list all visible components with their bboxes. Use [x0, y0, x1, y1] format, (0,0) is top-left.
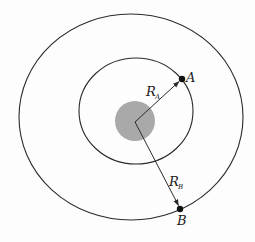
radius-a-label: R A — [145, 84, 160, 101]
point-a — [179, 76, 185, 82]
radius-b-label: R B — [168, 174, 183, 191]
central-body — [115, 101, 155, 141]
radius-a-label-sub: A — [154, 93, 160, 101]
radius-vector-a — [135, 82, 179, 123]
orbit-diagram: A B R A R B — [0, 0, 255, 242]
point-b-label: B — [176, 213, 187, 228]
point-a-label: A — [185, 70, 195, 85]
radius-b-label-sub: B — [177, 183, 183, 191]
point-b — [177, 206, 183, 212]
